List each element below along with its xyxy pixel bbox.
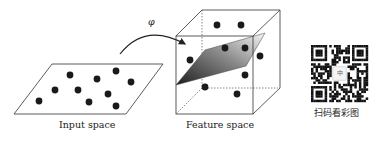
qr-center-badge: 中: [337, 69, 343, 77]
data-point: [242, 72, 249, 79]
feature-space-label: Feature space: [186, 119, 254, 130]
qr-code[interactable]: 中: [311, 45, 368, 102]
data-point: [128, 79, 135, 86]
data-point: [242, 45, 249, 52]
data-point: [234, 91, 241, 98]
phi-symbol: φ: [148, 16, 155, 27]
data-point: [94, 76, 101, 83]
kernel-mapping-figure: 中 Input space Feature space φ 扫码看彩图: [0, 0, 388, 141]
data-point: [75, 87, 82, 94]
feature-space-cube: [176, 10, 280, 114]
mapping-arrow: [120, 35, 185, 54]
data-point: [86, 99, 93, 106]
input-points: [36, 68, 135, 110]
input-space-plane: [14, 64, 163, 114]
data-point: [105, 91, 112, 98]
data-point: [113, 103, 120, 110]
data-point: [36, 98, 43, 105]
input-space-label: Input space: [59, 119, 115, 130]
data-point: [67, 72, 74, 79]
data-point: [238, 22, 245, 29]
data-point: [202, 84, 209, 91]
data-point: [187, 57, 194, 64]
data-point: [52, 87, 59, 94]
data-point: [222, 45, 229, 52]
data-point: [257, 53, 264, 60]
qr-caption: 扫码看彩图: [314, 106, 359, 119]
data-point: [214, 22, 221, 29]
data-point: [113, 68, 120, 75]
